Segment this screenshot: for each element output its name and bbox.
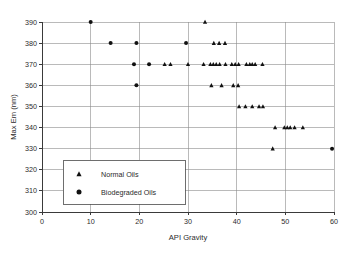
- y-tick-label: 380: [25, 39, 37, 48]
- y-tick-label: 330: [25, 144, 37, 153]
- x-tick-label: 10: [87, 217, 95, 226]
- x-tick-label: 30: [184, 217, 192, 226]
- y-tick-label: 340: [25, 123, 37, 132]
- legend-group: Normal OilsBiodegraded Oils: [63, 160, 185, 204]
- legend-entry-label: Normal Oils: [101, 170, 139, 179]
- plot-svg: 3003103203303403503603703803900102030405…: [0, 0, 350, 258]
- y-tick-label: 310: [25, 186, 37, 195]
- y-tick-label: 360: [25, 81, 37, 90]
- x-tick-label: 20: [135, 217, 143, 226]
- x-tick-label: 50: [281, 217, 289, 226]
- data-point-biodegraded-oils: [184, 41, 188, 45]
- legend-box: [63, 160, 185, 204]
- y-tick-label: 370: [25, 60, 37, 69]
- circle-icon: [77, 190, 82, 195]
- y-tick-label: 320: [25, 165, 37, 174]
- y-axis-title: Max Em (nm): [9, 94, 18, 140]
- y-tick-label: 300: [25, 208, 37, 217]
- scatter-plot-figure: 3003103203303403503603703803900102030405…: [0, 0, 350, 258]
- x-tick-label: 0: [40, 217, 44, 226]
- y-tick-label: 390: [25, 18, 37, 27]
- data-point-biodegraded-oils: [89, 20, 93, 24]
- data-point-biodegraded-oils: [134, 41, 138, 45]
- data-point-biodegraded-oils: [134, 83, 138, 87]
- y-tick-label: 350: [25, 102, 37, 111]
- legend-entry-label: Biodegraded Oils: [101, 188, 157, 197]
- data-point-biodegraded-oils: [109, 41, 113, 45]
- data-point-biodegraded-oils: [147, 62, 151, 66]
- x-axis-title: API Gravity: [169, 233, 208, 242]
- data-point-biodegraded-oils: [132, 62, 136, 66]
- data-point-biodegraded-oils: [330, 147, 334, 151]
- x-tick-label: 60: [330, 217, 338, 226]
- x-tick-label: 40: [233, 217, 241, 226]
